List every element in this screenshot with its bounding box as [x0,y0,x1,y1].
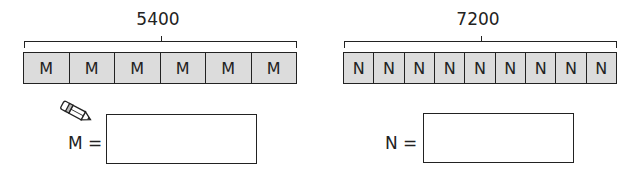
right-brace [344,41,617,48]
left-unit-cell: M [70,53,116,83]
n-equals-label: N = [385,133,417,153]
left-unit-cell: M [206,53,252,83]
right-bar-model: NNNNNNNNN [343,52,617,84]
right-unit-cell: N [587,53,616,83]
left-bar-model: MMMMMM [23,52,297,84]
left-total-label: 5400 [118,9,198,29]
right-total-label: 7200 [438,9,518,29]
left-unit-cell: M [115,53,161,83]
m-answer-box[interactable] [106,114,257,164]
right-unit-cell: N [405,53,435,83]
left-unit-cell: M [24,53,70,83]
right-unit-cell: N [435,53,465,83]
right-unit-cell: N [556,53,586,83]
left-brace [24,41,297,48]
left-unit-cell: M [252,53,297,83]
right-unit-cell: N [526,53,556,83]
n-answer-box[interactable] [423,113,574,163]
right-unit-cell: N [344,53,374,83]
right-unit-cell: N [374,53,404,83]
right-unit-cell: N [465,53,495,83]
m-equals-label: M = [68,133,102,153]
right-unit-cell: N [496,53,526,83]
left-unit-cell: M [161,53,207,83]
pencil-icon [57,100,97,126]
